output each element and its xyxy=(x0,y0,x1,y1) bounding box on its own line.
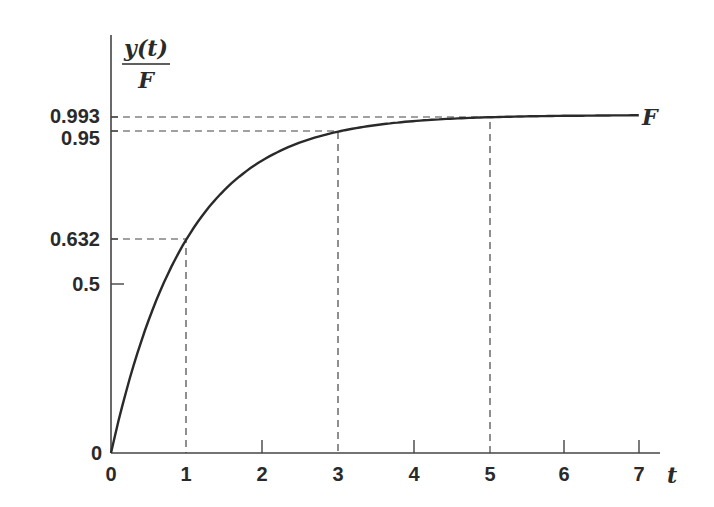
y-tick-label: 0.5 xyxy=(72,273,100,295)
x-tick-label: 3 xyxy=(332,463,343,485)
y-tick-label: 0.993 xyxy=(50,105,100,127)
y-tick-label: 0.632 xyxy=(50,228,100,250)
curve-label: F xyxy=(641,104,659,130)
guide-t5 xyxy=(111,117,490,453)
y-ticks xyxy=(111,117,124,284)
x-tick-label: 5 xyxy=(484,463,495,485)
x-tick-labels: 0 1 2 3 4 5 6 7 xyxy=(105,463,644,485)
y-tick-labels: 0 0.5 0.632 0.95 0.993 xyxy=(50,105,102,464)
y-tick-label: 0 xyxy=(91,442,102,464)
x-tick-label: 6 xyxy=(558,463,569,485)
x-tick-label: 1 xyxy=(180,463,191,485)
x-tick-label: 2 xyxy=(256,463,267,485)
x-ticks xyxy=(262,440,639,453)
response-curve xyxy=(111,115,639,453)
step-response-chart: y(t) F F 0 0.5 0.632 0.95 0.993 0 1 xyxy=(0,0,714,507)
guide-t3 xyxy=(111,131,338,453)
y-axis-label-denominator: F xyxy=(137,67,155,93)
x-axis-label: t xyxy=(667,462,677,488)
y-axis-label-numerator: y(t) xyxy=(123,35,168,61)
x-tick-label: 4 xyxy=(408,463,420,485)
x-tick-label: 7 xyxy=(633,463,644,485)
dashed-guides xyxy=(111,117,490,453)
x-tick-label: 0 xyxy=(105,463,116,485)
guide-t1 xyxy=(111,239,186,453)
y-tick-label: 0.95 xyxy=(61,127,100,149)
